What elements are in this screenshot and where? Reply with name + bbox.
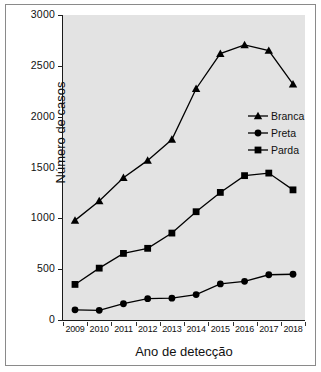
legend-marker-circle-icon [247,127,269,139]
legend-marker-triangle-icon [247,110,269,122]
x-tick-label: 2014 [183,324,209,334]
legend-item-parda: Parda [247,141,304,158]
legend-label: Preta [271,127,296,139]
legend: BrancaPretaParda [247,107,304,158]
x-tick-label: 2016 [232,324,258,334]
x-tick-label: 2011 [110,324,136,334]
y-tick-mark [58,269,63,270]
x-tick-mark [305,322,306,326]
x-tick-label: 2018 [280,324,306,334]
figure: 050010001500200025003000 200920102011201… [0,0,321,372]
x-axis-title: Ano de detecção [63,344,305,359]
x-tick-label: 2012 [135,324,161,334]
legend-label: Branca [271,110,304,122]
y-tick-mark [58,15,63,16]
x-tick-label: 2017 [256,324,282,334]
legend-item-preta: Preta [247,124,304,141]
legend-marker-square-icon [247,144,269,156]
x-tick-label: 2015 [207,324,233,334]
y-axis-title: Número de casos [53,38,68,228]
x-tick-label: 2013 [159,324,185,334]
x-tick-label: 2009 [62,324,88,334]
legend-label: Parda [271,144,299,156]
x-tick-label: 2010 [86,324,112,334]
legend-item-branca: Branca [247,107,304,124]
y-tick-label: 0 [49,313,55,325]
y-tick-mark [58,320,63,321]
y-axis-title-wrap: Número de casos [12,15,42,320]
